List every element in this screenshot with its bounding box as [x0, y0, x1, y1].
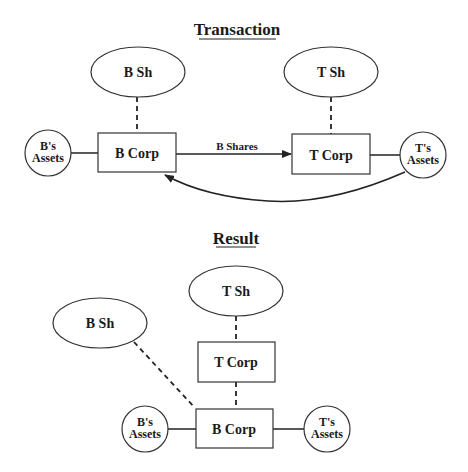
b-assets-label-line2: Assets — [129, 427, 161, 441]
diagram-canvas: Transaction B Sh T Sh B Corp T Corp B Sh… — [0, 0, 468, 472]
t-sh-label: T Sh — [222, 284, 250, 299]
b-sh-label: B Sh — [86, 316, 115, 331]
b-corp-label: B Corp — [115, 146, 159, 161]
b-corp-label: B Corp — [212, 422, 256, 437]
b-sh-label: B Sh — [124, 65, 153, 80]
result-section: Result T Sh B Sh T Corp B Corp B's Asset… — [53, 229, 350, 452]
t-corp-label: T Corp — [309, 148, 353, 163]
transaction-title: Transaction — [194, 20, 281, 39]
t-assets-label-line2: Assets — [407, 153, 439, 167]
t-sh-label: T Sh — [317, 65, 345, 80]
t-assets-to-b-corp-curved-arrow — [165, 172, 405, 201]
t-corp-label: T Corp — [214, 355, 258, 370]
transaction-section: Transaction B Sh T Sh B Corp T Corp B Sh… — [25, 20, 446, 201]
result-title: Result — [213, 229, 260, 248]
b-assets-label-line2: Assets — [32, 151, 64, 165]
b-shares-label: B Shares — [216, 140, 258, 152]
t-assets-label-line2: Assets — [311, 427, 343, 441]
b-sh-to-b-corp-dashed — [134, 342, 195, 408]
